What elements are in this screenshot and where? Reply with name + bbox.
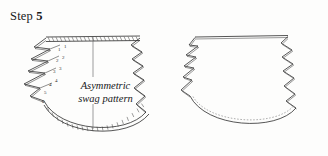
pleat-mark-1-inner: 1 bbox=[58, 47, 61, 52]
diagram-sheet: Step 5 bbox=[0, 0, 328, 156]
panel-step-5: Step 5 bbox=[0, 0, 164, 156]
pleat-mark-3-outer: 3 bbox=[59, 66, 62, 71]
step-6-top-edge bbox=[195, 36, 288, 40]
pleat-mark-3-inner: 3 bbox=[53, 69, 56, 74]
pleat-mark-5-outer: 5 bbox=[44, 90, 47, 95]
pleat-mark-1-outer: 1 bbox=[64, 44, 67, 49]
step-5-caption: Asymmetric swag pattern bbox=[58, 80, 153, 106]
pleat-mark-2-inner: 2 bbox=[56, 58, 59, 63]
pleat-mark-6-inner: 6 bbox=[42, 99, 45, 104]
pleat-mark-2-outer: 2 bbox=[62, 55, 65, 60]
pleat-mark-4-inner: 4 bbox=[49, 82, 52, 87]
step-5-figure bbox=[0, 0, 164, 156]
panel-step-6: Step 6 WS fabric of swag bbox=[164, 0, 328, 156]
step-6-stitch-line bbox=[193, 97, 293, 120]
step-6-right-zigzag-edge bbox=[281, 37, 297, 110]
step-6-figure bbox=[164, 0, 328, 156]
step-6-left-zigzag-edge bbox=[181, 38, 199, 98]
step-6-bottom-hem bbox=[190, 96, 296, 123]
